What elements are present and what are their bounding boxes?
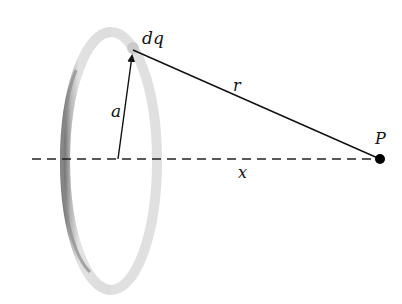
charged-ring bbox=[62, 32, 157, 290]
label-p: P bbox=[374, 129, 386, 148]
label-r: r bbox=[233, 76, 242, 95]
label-dq: dq bbox=[142, 28, 164, 48]
distance-line-r bbox=[133, 50, 380, 159]
ring-field-diagram: dq a r x P bbox=[0, 0, 402, 304]
point-p bbox=[375, 154, 385, 164]
label-a: a bbox=[111, 101, 121, 121]
label-x: x bbox=[238, 163, 247, 182]
